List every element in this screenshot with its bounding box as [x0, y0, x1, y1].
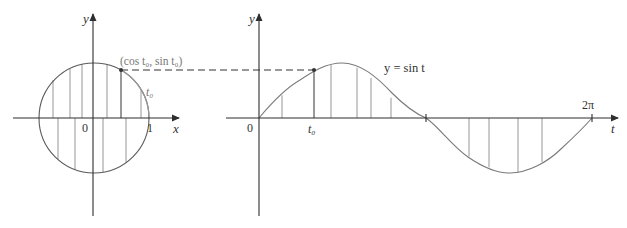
point-label: (cos t₀, sin t₀) [120, 55, 182, 68]
circle-origin-label: 0 [82, 121, 88, 135]
sine-y-axis-label: y [247, 11, 255, 26]
sine-curve-label: y = sin t [384, 61, 425, 75]
circle-one-label: 1 [147, 121, 153, 135]
sine-t-axis-label: t [611, 121, 615, 136]
circle-y-axis-label: y [81, 11, 89, 26]
sine-panel: y t 0 t₀ 2π y = sin t [226, 11, 618, 216]
circle-x-axis-label: x [172, 121, 179, 136]
sine-point-marker [312, 68, 316, 72]
t0-arc [121, 70, 149, 118]
two-pi-label: 2π [582, 98, 594, 112]
unit-circle-sine-diagram: y x 0 1 (cos t₀, sin t₀) t₀ [0, 0, 627, 228]
arc-label: t₀ [146, 86, 153, 98]
t0-axis-label: t₀ [308, 122, 316, 136]
sine-origin-label: 0 [247, 121, 253, 135]
circle-panel: y x 0 1 (cos t₀, sin t₀) t₀ [13, 11, 182, 216]
